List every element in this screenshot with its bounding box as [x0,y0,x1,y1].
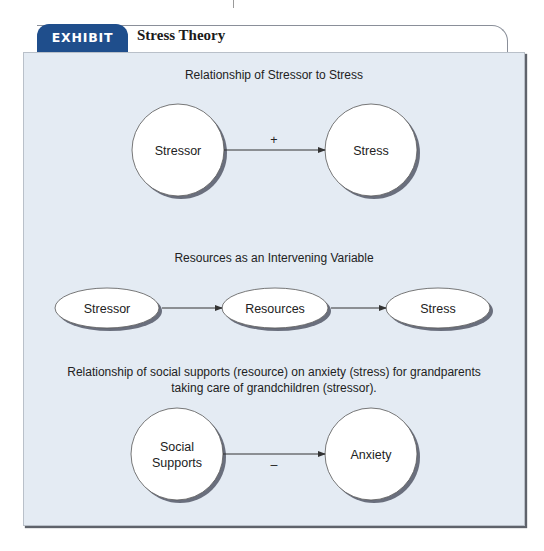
social-label-line2: Supports [137,455,217,471]
stress-ellipse-label: Stress [398,301,478,317]
resources-ellipse-label: Resources [235,301,315,317]
stressor-ellipse-label: Stressor [67,301,147,317]
stress-label: Stress [331,143,411,159]
stressor-label: Stressor [138,143,218,159]
social-label-line1: Social [137,439,217,455]
section-1-heading: Relationship of Stressor to Stress [23,67,525,83]
anxiety-label: Anxiety [331,447,411,463]
edge-sign-plus: + [262,132,286,148]
section-3-heading-line1: Relationship of social supports (resourc… [23,364,525,380]
section-3-heading-line2: taking care of grandchildren (stressor). [23,380,525,396]
edge-sign-minus: – [262,457,286,473]
section-2-heading: Resources as an Intervening Variable [23,250,525,266]
